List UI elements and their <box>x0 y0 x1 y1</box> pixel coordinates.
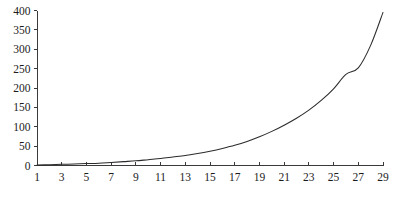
x-axis-tick-label: 19 <box>254 171 266 183</box>
chart-container: 050100150200250300350400 135791113151719… <box>0 0 403 204</box>
y-axis-tick-label: 100 <box>13 121 31 133</box>
y-axis-tick-label: 300 <box>13 43 31 55</box>
y-axis-tick-label: 50 <box>19 140 31 152</box>
y-axis-tick-label: 350 <box>13 24 31 36</box>
y-axis-tick-label: 0 <box>25 160 31 172</box>
data-series-line <box>37 12 383 165</box>
y-axis-tick-label: 150 <box>13 101 31 113</box>
line-chart: 050100150200250300350400 135791113151719… <box>0 0 403 204</box>
x-axis-tick-label: 25 <box>328 171 340 183</box>
x-axis-tick-label: 7 <box>108 171 114 183</box>
x-axis-tick-label: 27 <box>353 171 365 183</box>
y-axis-tick-label: 400 <box>13 5 31 17</box>
x-axis-tick-label: 17 <box>229 171 241 183</box>
x-axis-tick-label: 23 <box>303 171 315 183</box>
x-axis-tick-label: 1 <box>34 171 40 183</box>
x-axis-tick-label: 15 <box>204 171 216 183</box>
x-axis-tick-label: 9 <box>133 171 139 183</box>
x-axis-tick-label: 3 <box>59 171 65 183</box>
x-axis-tick-label: 21 <box>278 171 290 183</box>
x-axis-tick-label: 29 <box>377 171 389 183</box>
y-axis-tick-label: 200 <box>13 82 31 94</box>
x-axis: 1357911131517192123252729 <box>34 162 389 183</box>
x-axis-tick-label: 11 <box>155 171 166 183</box>
y-axis-tick-label: 250 <box>13 63 31 75</box>
x-axis-tick-label: 13 <box>180 171 192 183</box>
x-axis-tick-label: 5 <box>84 171 90 183</box>
y-axis: 050100150200250300350400 <box>13 5 37 172</box>
